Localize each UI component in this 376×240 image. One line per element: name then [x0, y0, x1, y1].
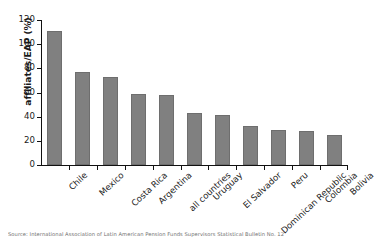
y-axis-line — [41, 20, 42, 166]
bar — [103, 77, 118, 165]
x-tick-label: Dominican Republic — [279, 170, 348, 236]
x-tick-mark — [292, 166, 293, 170]
y-tick-mark — [37, 44, 41, 45]
y-tick-label: 0 — [30, 159, 35, 169]
bar — [187, 113, 202, 165]
x-tick-label: Peru — [289, 170, 310, 190]
y-tick-mark — [37, 93, 41, 94]
y-tick-mark — [37, 141, 41, 142]
x-tick-mark — [181, 166, 182, 170]
bar — [327, 135, 342, 165]
x-tick-mark — [320, 166, 321, 170]
y-tick-mark — [37, 117, 41, 118]
y-tick-mark — [37, 68, 41, 69]
y-tick-label: 100 — [19, 38, 35, 48]
bar — [243, 126, 258, 165]
bar — [47, 31, 62, 165]
y-tick-label: 80 — [24, 62, 35, 72]
y-tick-label: 40 — [24, 111, 35, 121]
bar — [215, 115, 230, 165]
y-tick-label: 120 — [19, 14, 35, 24]
figure-caption: Source: International Association of Lat… — [8, 231, 356, 237]
x-tick-label: Mexico — [97, 170, 126, 198]
x-tick-label: Chile — [67, 170, 90, 192]
bar — [159, 95, 174, 165]
y-tick-mark — [37, 20, 41, 21]
x-tick-mark — [208, 166, 209, 170]
bar — [131, 94, 146, 165]
bar — [271, 130, 286, 165]
y-tick-mark — [37, 165, 41, 166]
x-tick-mark — [125, 166, 126, 170]
x-tick-mark — [153, 166, 154, 170]
x-tick-mark — [69, 166, 70, 170]
x-tick-label: El Salvador — [241, 170, 283, 210]
plot-area: 020406080100120 — [41, 20, 348, 166]
x-tick-mark — [264, 166, 265, 170]
y-tick-label: 60 — [24, 87, 35, 97]
x-tick-mark — [97, 166, 98, 170]
bar — [299, 131, 314, 165]
y-tick-label: 20 — [24, 135, 35, 145]
x-axis-line — [41, 165, 348, 166]
bar — [75, 72, 90, 165]
x-tick-mark — [347, 166, 348, 170]
